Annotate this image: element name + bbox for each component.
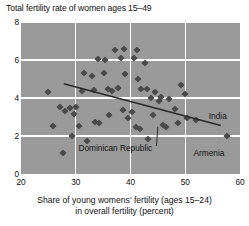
y-tick-label: 6	[1, 56, 19, 65]
annotation-label: Dominican Republic	[78, 144, 152, 153]
x-axis-label: Share of young womens' fertility (ages 1…	[0, 195, 249, 217]
x-axis-label-line2: in overall fertility (percent)	[0, 206, 249, 217]
x-tick-label: 60	[235, 178, 244, 187]
x-tick-label: 50	[181, 178, 190, 187]
annotation-label: India	[209, 112, 227, 121]
fertility-scatter-chart: Total fertility rate of women ages 15–49…	[0, 0, 249, 226]
x-tick-label: 40	[126, 178, 135, 187]
y-tick-label: 4	[1, 94, 19, 103]
chart-title: Total fertility rate of women ages 15–49	[6, 3, 152, 13]
plot-area: IndiaDominican RepublicArmenia	[21, 22, 240, 174]
leader-line	[156, 127, 157, 146]
x-tick-label: 30	[71, 178, 80, 187]
y-tick-label: 8	[1, 18, 19, 27]
y-axis-ticks: 02468	[0, 0, 19, 226]
y-tick-label: 2	[1, 132, 19, 141]
x-axis-label-line1: Share of young womens' fertility (ages 1…	[0, 195, 249, 206]
annotation-label: Armenia	[193, 149, 224, 158]
x-tick-label: 20	[16, 178, 25, 187]
